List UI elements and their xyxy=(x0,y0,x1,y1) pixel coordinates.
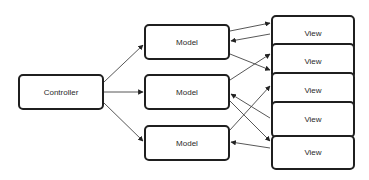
view-label: View xyxy=(304,148,321,157)
controller-node[interactable]: Controller xyxy=(18,74,104,110)
view-label: View xyxy=(304,29,321,38)
view-label: View xyxy=(304,86,321,95)
view-label: View xyxy=(304,115,321,124)
model-node-1[interactable]: Model xyxy=(144,24,230,60)
edge-model-1-to-view-2 xyxy=(230,54,270,70)
view-node-5[interactable]: View xyxy=(271,135,355,170)
edge-view-1-to-model-1 xyxy=(231,34,270,41)
controller-label: Controller xyxy=(44,88,79,97)
model-node-3[interactable]: Model xyxy=(144,125,230,161)
view-node-4[interactable]: View xyxy=(271,101,355,138)
edge-model-3-to-view-3 xyxy=(230,86,270,130)
edge-model-2-to-view-2 xyxy=(230,54,270,80)
model-node-2[interactable]: Model xyxy=(144,74,230,110)
edge-controller-to-model-1 xyxy=(104,45,143,82)
edge-model-1-to-view-1 xyxy=(230,23,270,31)
model-label: Model xyxy=(176,88,198,97)
edge-view-4-to-model-2 xyxy=(231,94,270,118)
edge-controller-to-model-3 xyxy=(104,103,143,141)
model-label: Model xyxy=(176,139,198,148)
view-label: View xyxy=(304,57,321,66)
edge-view-5-to-model-3 xyxy=(231,142,270,148)
model-label: Model xyxy=(176,38,198,47)
edge-model-2-to-view-5 xyxy=(230,101,270,141)
